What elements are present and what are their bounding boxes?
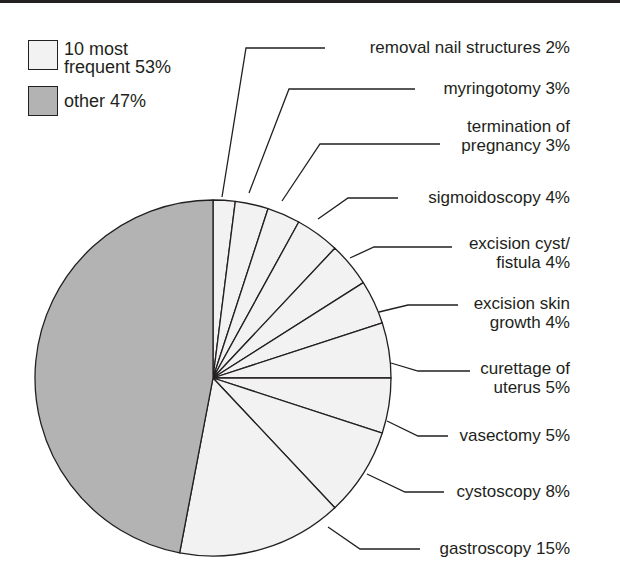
slice-label-myringotomy: myringotomy 3% — [443, 79, 570, 98]
slice-label-termination: termination of pregnancy 3% — [461, 117, 570, 155]
slice-label-excision-cyst: excision cyst/ fistula 4% — [469, 234, 570, 272]
leader-vasectomy — [387, 421, 448, 436]
legend-swatch-other — [28, 86, 58, 116]
slice-label-gastroscopy: gastroscopy 15% — [440, 539, 570, 558]
slice-label-removal-nail: removal nail structures 2% — [370, 38, 570, 57]
leader-excision-cyst — [350, 247, 452, 258]
legend: 10 most frequent 53% other 47% — [28, 40, 171, 126]
legend-item-frequent: 10 most frequent 53% — [28, 40, 171, 76]
slice-label-cystoscopy: cystoscopy 8% — [457, 482, 570, 501]
slice-label-curettage: curettage of uterus 5% — [480, 359, 570, 397]
leader-termination — [282, 144, 440, 201]
leader-gastroscopy — [328, 527, 420, 549]
legend-label: other 47% — [64, 86, 146, 116]
slice-label-sigmoidoscopy: sigmoidoscopy 4% — [428, 188, 570, 207]
pie-slices — [35, 200, 391, 556]
slice-label-excision-skin: excision skin growth 4% — [474, 294, 570, 332]
leader-removal-nail — [222, 48, 325, 197]
legend-label: 10 most frequent 53% — [64, 40, 171, 76]
leader-sigmoidoscopy — [318, 198, 398, 219]
leader-excision-skin — [379, 305, 458, 312]
leader-curettage — [391, 363, 470, 371]
pie-slice-other — [35, 200, 213, 553]
leader-myringotomy — [249, 89, 415, 193]
legend-item-other: other 47% — [28, 86, 171, 116]
legend-swatch-frequent — [28, 40, 58, 70]
slice-label-vasectomy: vasectomy 5% — [459, 426, 570, 445]
leader-cystoscopy — [367, 474, 444, 492]
